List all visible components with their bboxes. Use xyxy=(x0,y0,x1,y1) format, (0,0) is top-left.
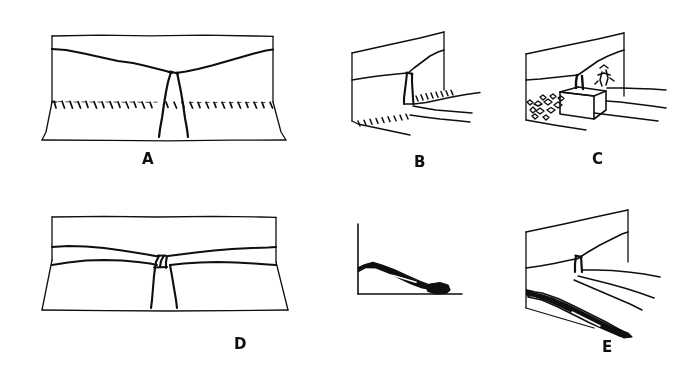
wall-terrain-break xyxy=(526,259,578,269)
fissure-right-wall xyxy=(412,74,414,105)
fissure-cap xyxy=(407,73,413,75)
panel-c xyxy=(514,18,674,148)
panel-b-label: B xyxy=(414,155,426,170)
house-roof-ridge xyxy=(560,87,578,92)
block-back-top-edge xyxy=(526,33,624,54)
block-base-front xyxy=(352,121,410,135)
debris-field xyxy=(527,94,564,120)
block-top-edge xyxy=(52,35,273,36)
ground-line-upper xyxy=(607,88,666,90)
panel-e-label: E xyxy=(602,340,613,355)
block-back-top-edge xyxy=(526,210,628,232)
displaced-surface-lower xyxy=(413,106,472,113)
panel-d-label: D xyxy=(234,337,247,352)
upper-scarp-left xyxy=(52,49,172,73)
wall-upper-break xyxy=(352,73,408,80)
block-right-flank xyxy=(276,262,288,310)
fissure-left-wall xyxy=(404,73,407,104)
upper-scarp-left xyxy=(52,246,158,257)
fissure-cap xyxy=(576,256,582,258)
panel-b xyxy=(348,28,488,153)
panel-a xyxy=(40,30,295,150)
wall-slope-ramp xyxy=(578,50,624,75)
lower-scarp-right xyxy=(170,262,276,265)
block-base-line xyxy=(42,140,286,141)
graben-wall-2 xyxy=(160,256,164,268)
house-roof-left-edge xyxy=(560,92,594,96)
basal-slip-line xyxy=(410,115,470,122)
flow-line-upper xyxy=(582,270,660,277)
block-base-front xyxy=(526,120,586,130)
block-base-line xyxy=(42,310,288,311)
panel-e xyxy=(516,196,681,341)
flow-line-lower xyxy=(574,280,642,310)
ground-line-mid xyxy=(606,101,666,108)
ground-line-lower xyxy=(594,113,658,121)
panel-profile xyxy=(352,222,472,312)
central-fissure-left xyxy=(159,72,171,137)
fissure-left-wall xyxy=(575,256,576,272)
upper-scarp-right xyxy=(176,50,273,74)
hachure-row-upper xyxy=(416,90,453,101)
graben-wall-4 xyxy=(170,265,177,308)
panel-d xyxy=(40,212,295,327)
block-right-flank xyxy=(273,102,286,140)
toe-lobe xyxy=(426,283,450,295)
debris-tongue-lower-edge xyxy=(528,297,620,336)
figure-root: A xyxy=(0,0,692,380)
upper-scarp-right xyxy=(168,247,276,256)
panel-c-label: C xyxy=(592,152,604,167)
debris-toe-tip xyxy=(614,328,632,338)
panel-a-label: A xyxy=(142,152,154,167)
wall-surface-ramp xyxy=(408,50,444,73)
block-left-flank xyxy=(42,260,52,310)
block-left-flank xyxy=(42,102,52,140)
vegetation-clump xyxy=(595,65,614,86)
block-back-top-edge xyxy=(352,32,444,53)
wall-slope-ramp xyxy=(578,232,628,259)
graben-cap-lower xyxy=(154,267,167,268)
lower-scarp-left xyxy=(52,260,157,265)
hachure-row-lower xyxy=(358,114,408,126)
wall-terrain-break xyxy=(526,75,578,80)
block-top-edge xyxy=(52,216,276,217)
scarp-crack-left xyxy=(576,75,577,88)
scarp-trace-dashes xyxy=(58,102,265,103)
